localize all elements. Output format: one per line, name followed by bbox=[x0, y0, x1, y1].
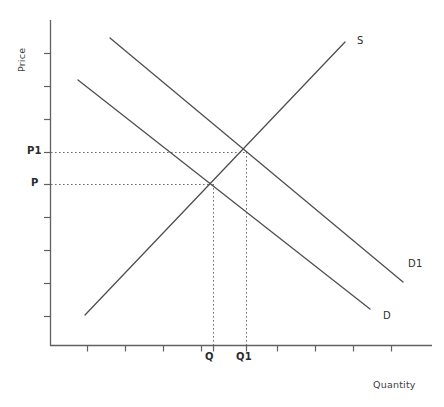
y-axis-ticks bbox=[44, 54, 51, 317]
demand-shifted-curve-label: D1 bbox=[408, 258, 422, 269]
demand-shifted-curve bbox=[110, 38, 403, 282]
supply-demand-chart: Price Quantity P1 P Q Q1 S D1 D bbox=[0, 0, 444, 407]
y-axis-label: Price bbox=[16, 48, 27, 72]
supply-curve-label: S bbox=[357, 35, 364, 46]
demand-curve bbox=[78, 80, 370, 309]
supply-curve bbox=[85, 42, 345, 315]
demand-curve-label: D bbox=[383, 310, 391, 321]
y-axis bbox=[44, 20, 51, 346]
chart-canvas bbox=[0, 0, 444, 407]
quantity-original-label: Q bbox=[205, 351, 214, 362]
price-new-label: P1 bbox=[27, 145, 42, 156]
quantity-new-label: Q1 bbox=[236, 351, 252, 362]
x-axis-label: Quantity bbox=[373, 379, 416, 390]
price-original-label: P bbox=[31, 177, 39, 188]
